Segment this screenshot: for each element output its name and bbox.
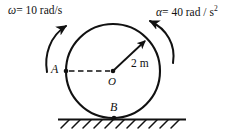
point-b-label: B [110,101,117,113]
omega-equation: = 10 rad/s [16,4,62,16]
omega-label: ω= 10 rad/s [8,5,62,17]
ground-hatching [61,120,179,128]
omega-symbol: ω [8,4,16,16]
point-a-label: A [51,63,58,75]
point-a-marker [64,69,69,74]
diagram-canvas [0,0,242,136]
alpha-equation: = 40 rad / s [162,6,214,18]
radius-label: 2 m [131,58,149,70]
alpha-exponent: 2 [214,4,218,13]
alpha-arc-arrow [150,21,174,63]
rolling-disk-diagram: ω= 10 rad/s α= 40 rad / s2 2 m A O B [0,0,242,136]
point-o-label: O [108,76,116,87]
alpha-label: α= 40 rad / s2 [156,5,218,18]
